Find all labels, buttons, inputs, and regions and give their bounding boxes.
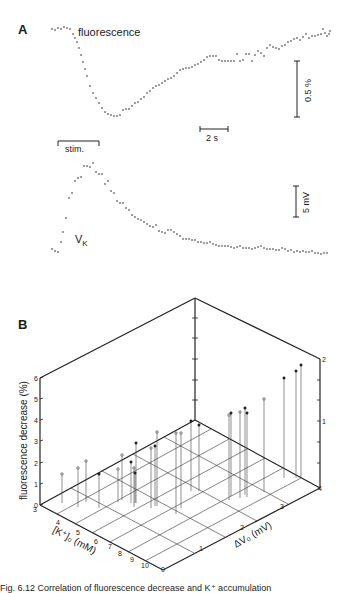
right-axis-tick-2: 2 xyxy=(322,356,326,363)
stim-label: stim. xyxy=(65,144,84,154)
svg-text:4: 4 xyxy=(318,485,322,492)
svg-text:7: 7 xyxy=(108,543,112,550)
svg-text:0: 0 xyxy=(161,566,165,573)
fluorescence-scale-label: 0.5 % xyxy=(303,79,313,102)
z-axis-tick-labels: 0 1 2 3 4 5 6 xyxy=(34,375,38,509)
svg-text:6: 6 xyxy=(34,375,38,382)
figure-caption: Fig. 6.12 Correlation of fluorescence de… xyxy=(0,583,271,593)
z-axis-title: fluorescence decrease (%) xyxy=(18,381,29,500)
voltage-scale-bar xyxy=(293,186,299,217)
svg-text:3: 3 xyxy=(280,503,284,510)
z-axis-ticks xyxy=(40,318,320,505)
time-scale-label: 2 s xyxy=(206,133,219,143)
svg-text:1: 1 xyxy=(34,481,38,488)
svg-text:8: 8 xyxy=(118,550,122,557)
voltage-scale-label: 5 mV xyxy=(301,192,311,213)
fluorescence-trace xyxy=(51,26,331,117)
panel-b-label: B xyxy=(18,317,27,332)
svg-text:4: 4 xyxy=(34,417,38,424)
svg-text:9: 9 xyxy=(130,556,134,563)
svg-text:3: 3 xyxy=(33,506,37,513)
v-axis-tick-labels: 0 1 2 3 4 xyxy=(161,485,322,573)
k-axis-title: [K⁺]₀ (mM) xyxy=(51,524,98,556)
vk-label: VK xyxy=(75,233,88,248)
svg-text:3: 3 xyxy=(34,438,38,445)
time-scale-bar xyxy=(200,126,228,132)
svg-text:2: 2 xyxy=(240,524,244,531)
svg-text:1: 1 xyxy=(199,545,203,552)
fluorescence-scale-bar xyxy=(294,61,300,117)
svg-text:5: 5 xyxy=(34,396,38,403)
vk-trace xyxy=(51,162,328,255)
right-axis-tick-1: 1 xyxy=(322,418,326,425)
svg-text:2: 2 xyxy=(34,460,38,467)
svg-text:10: 10 xyxy=(141,562,149,569)
panel-a-label: A xyxy=(18,22,28,37)
fluorescence-label: fluorescence xyxy=(78,26,140,38)
